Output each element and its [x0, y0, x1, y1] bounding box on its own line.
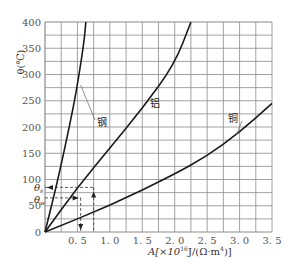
x-axis-label: A[×1016J/(Ω·m4)]: [147, 245, 232, 257]
x-axis-ticks: 0. 51. 01. 52. 02. 53. 03. 5: [68, 235, 282, 246]
y-tick-label: 250: [22, 95, 41, 106]
y-tick-label: 200: [22, 122, 41, 133]
x-tick-label: 1. 5: [133, 235, 152, 246]
steel-leader: [81, 85, 95, 120]
y-tick-label: 150: [22, 148, 41, 159]
x-tick-label: 3. 5: [262, 235, 281, 246]
label-steel: 钢: [97, 116, 107, 128]
y-tick-label: 400: [22, 17, 41, 28]
y-tick-label: 0: [35, 227, 41, 238]
arrow-down-icon: [78, 224, 83, 230]
label-copper: 铜: [228, 113, 238, 124]
theta-s-label: θs: [34, 182, 43, 194]
arrow-left-icon: [47, 185, 53, 190]
x-tick-label: 3. 0: [230, 235, 249, 246]
label-aluminum: 铝: [150, 98, 160, 109]
x-tick-label: 0. 5: [68, 235, 87, 246]
theta-w-label: θw: [34, 194, 46, 206]
chart: 050100150200250300350400 0. 51. 01. 52. …: [0, 0, 286, 262]
annotations: [45, 185, 96, 232]
x-tick-label: 2. 5: [198, 235, 217, 246]
x-tick-label: 1. 0: [100, 235, 119, 246]
grid: [45, 22, 272, 232]
y-axis-label: θ(℃): [15, 49, 26, 74]
